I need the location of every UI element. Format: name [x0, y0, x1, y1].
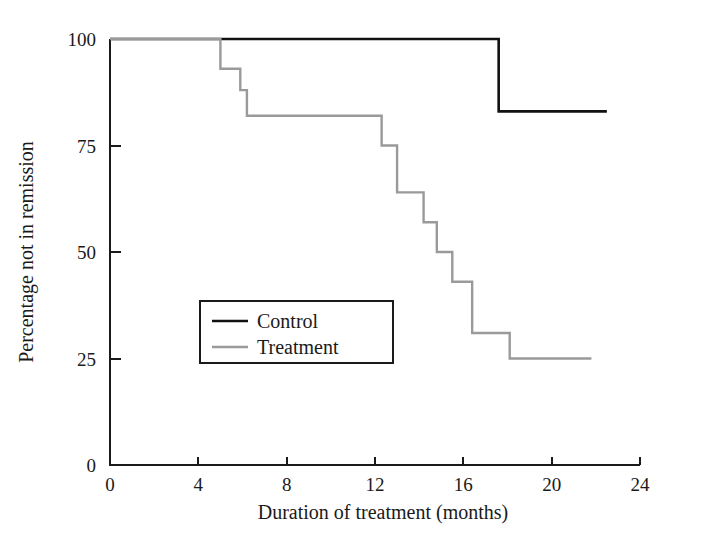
axis-lines: [110, 39, 640, 465]
x-axis-tick-labels: 04812162024: [105, 474, 650, 495]
kaplan-meier-chart: 04812162024 0255075100 ControlTreatment …: [0, 0, 703, 552]
legend-label-control: Control: [257, 310, 319, 332]
x-tick-label-4: 4: [194, 474, 204, 495]
y-tick-label-75: 75: [77, 136, 96, 157]
x-tick-label-12: 12: [366, 474, 385, 495]
y-axis-tick-labels: 0255075100: [68, 29, 97, 476]
x-tick-label-24: 24: [631, 474, 651, 495]
y-tick-label-25: 25: [77, 349, 96, 370]
chart-figure: 04812162024 0255075100 ControlTreatment …: [0, 0, 703, 552]
x-tick-label-20: 20: [542, 474, 561, 495]
x-tick-label-8: 8: [282, 474, 292, 495]
chart-legend: ControlTreatment: [200, 301, 393, 363]
x-tick-label-16: 16: [454, 474, 473, 495]
y-axis-title: Percentage not in remission: [15, 141, 38, 363]
x-axis-title: Duration of treatment (months): [258, 501, 509, 524]
axis-frame: [110, 39, 640, 465]
y-tick-label-100: 100: [68, 29, 97, 50]
x-axis-ticks: [198, 457, 640, 465]
x-tick-label-0: 0: [105, 474, 115, 495]
legend-label-treatment: Treatment: [257, 336, 339, 358]
y-tick-label-50: 50: [77, 242, 96, 263]
y-tick-label-0: 0: [87, 455, 97, 476]
y-axis-ticks: [110, 39, 121, 359]
series-line-control: [110, 39, 607, 111]
